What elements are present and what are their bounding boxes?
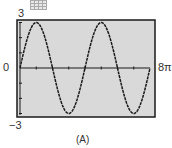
x-max-label: 8π (158, 62, 172, 73)
plot-area (0, 0, 172, 148)
y-min-label: −3 (9, 120, 22, 131)
y-max-label: 3 (18, 8, 24, 19)
x-min-label: 0 (3, 62, 9, 73)
figure-caption: (A) (76, 134, 89, 145)
